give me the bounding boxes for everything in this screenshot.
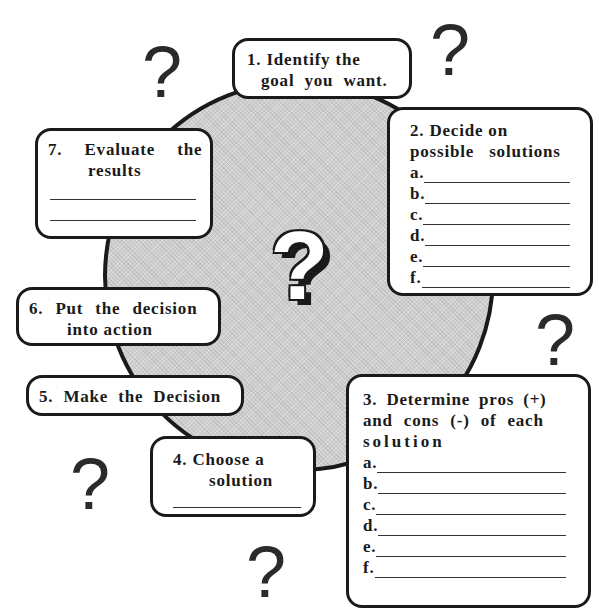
step-2-blank-a[interactable]: a. <box>410 162 574 183</box>
blank-label: c. <box>363 494 376 515</box>
step-3-blank-f[interactable]: f. <box>363 557 570 578</box>
blank-label: e. <box>363 536 376 557</box>
blank-line[interactable] <box>424 168 570 183</box>
question-mark-icon: ? <box>246 536 286 608</box>
blank-label: e. <box>410 246 423 267</box>
step-2-blank-d[interactable]: d. <box>410 225 574 246</box>
step-5-title: 5. Make the Decision <box>39 386 241 407</box>
step-7-title-line2: results <box>48 160 196 181</box>
step-4-title-line2: solution <box>173 470 299 491</box>
blank-label: a. <box>410 162 424 183</box>
blank-label: d. <box>410 225 425 246</box>
blank-line[interactable] <box>376 542 566 557</box>
blank-line[interactable] <box>377 458 566 473</box>
step-4-title-line1: 4. Choose a <box>173 449 299 470</box>
step-6-title-line1: 6. Put the decision <box>29 298 218 319</box>
step-3-pros-cons: 3. Determine pros (+) and cons (-) of ea… <box>346 374 591 608</box>
blank-label: f. <box>410 267 422 288</box>
blank-label: b. <box>410 183 425 204</box>
step-3-blank-a[interactable]: a. <box>363 452 570 473</box>
blank-line[interactable] <box>375 563 566 578</box>
step-4-blank-line[interactable] <box>173 507 301 508</box>
blank-line[interactable] <box>423 210 570 225</box>
blank-line[interactable] <box>378 521 566 536</box>
step-3-title-line1: 3. Determine pros (+) <box>363 389 570 410</box>
blank-label: b. <box>363 473 378 494</box>
blank-label: d. <box>363 515 378 536</box>
blank-line[interactable] <box>422 273 570 288</box>
step-2-blank-b[interactable]: b. <box>410 183 574 204</box>
center-question-mark-icon: ? <box>270 218 329 314</box>
step-6-title-line2: into action <box>29 319 218 340</box>
step-4-choose-solution: 4. Choose a solution <box>150 436 316 517</box>
blank-line[interactable] <box>425 231 570 246</box>
step-2-blank-c[interactable]: c. <box>410 204 574 225</box>
step-3-title-line3: solution <box>363 431 570 452</box>
step-2-title-line1: 2. Decide on <box>410 120 574 141</box>
step-3-blank-e[interactable]: e. <box>363 536 570 557</box>
step-1-title-line2: goal you want. <box>247 70 399 91</box>
step-6-put-into-action: 6. Put the decision into action <box>16 287 221 346</box>
blank-line[interactable] <box>423 252 570 267</box>
step-7-evaluate-results: 7. Evaluate the results <box>35 128 213 239</box>
blank-label: a. <box>363 452 377 473</box>
step-3-blank-d[interactable]: d. <box>363 515 570 536</box>
step-2-decide-solutions: 2. Decide on possible solutions a. b. c.… <box>387 107 593 296</box>
question-mark-icon: ? <box>142 36 182 108</box>
blank-line[interactable] <box>425 189 570 204</box>
step-3-blank-c[interactable]: c. <box>363 494 570 515</box>
step-1-title-line1: 1. Identify the <box>247 49 399 70</box>
blank-line[interactable] <box>376 500 566 515</box>
step-2-title-line2: possible solutions <box>410 141 574 162</box>
step-5-make-decision: 5. Make the Decision <box>26 375 244 416</box>
step-2-blank-e[interactable]: e. <box>410 246 574 267</box>
step-7-blank-line-2[interactable] <box>50 220 196 221</box>
step-7-title-line1: 7. Evaluate the <box>48 139 196 160</box>
step-1-identify-goal: 1. Identify the goal you want. <box>232 38 412 99</box>
step-3-title-line2: and cons (-) of each <box>363 410 570 431</box>
blank-line[interactable] <box>378 479 566 494</box>
step-7-blank-line-1[interactable] <box>50 199 196 200</box>
step-2-blank-f[interactable]: f. <box>410 267 574 288</box>
question-mark-icon: ? <box>535 304 575 376</box>
question-mark-icon: ? <box>70 448 110 520</box>
question-mark-icon: ? <box>430 14 470 86</box>
blank-label: f. <box>363 557 375 578</box>
step-3-blank-b[interactable]: b. <box>363 473 570 494</box>
blank-label: c. <box>410 204 423 225</box>
